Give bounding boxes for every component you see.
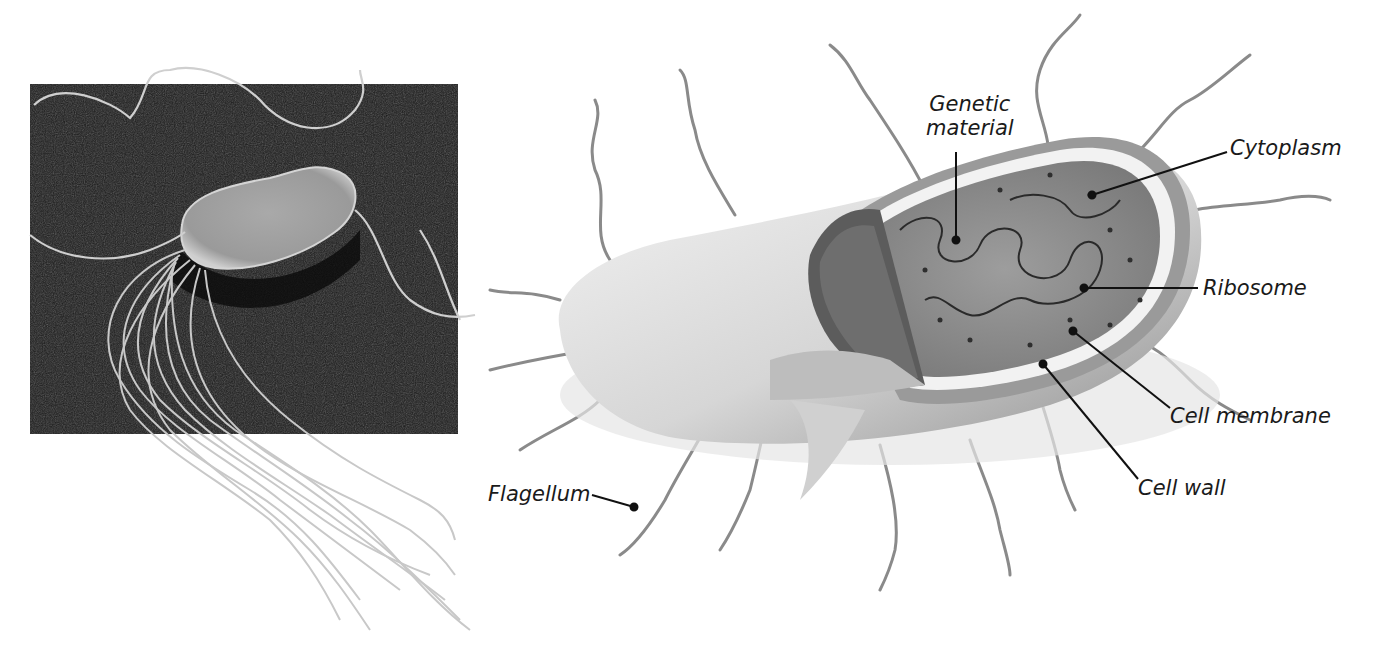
micrograph-image (0, 0, 490, 646)
cell-illustration (470, 0, 1376, 646)
label-flagellum: Flagellum (488, 482, 590, 506)
bacterial-cell-diagram: Genetic material Cytoplasm Ribosome Cell… (470, 0, 1376, 646)
label-cell-wall: Cell wall (1138, 476, 1226, 500)
label-genetic-material: Genetic material (926, 92, 1014, 140)
bacterium-micrograph (0, 0, 490, 646)
label-genetic-material-line2: material (926, 116, 1014, 140)
label-cell-membrane: Cell membrane (1170, 404, 1331, 428)
label-cytoplasm: Cytoplasm (1230, 136, 1342, 160)
label-genetic-material-line1: Genetic (926, 92, 1014, 116)
label-ribosome: Ribosome (1203, 276, 1307, 300)
